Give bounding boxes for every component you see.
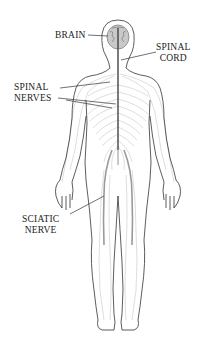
label-sciatic-nerve: SCIATIC NERVE [22, 214, 59, 236]
label-spinal-nerves: SPINAL NERVES [14, 82, 51, 104]
label-brain: BRAIN [55, 30, 86, 41]
nervous-system-diagram: BRAIN SPINAL CORD SPINAL NERVES SCIATIC … [0, 0, 207, 342]
label-spinal-cord: SPINAL CORD [156, 42, 190, 64]
